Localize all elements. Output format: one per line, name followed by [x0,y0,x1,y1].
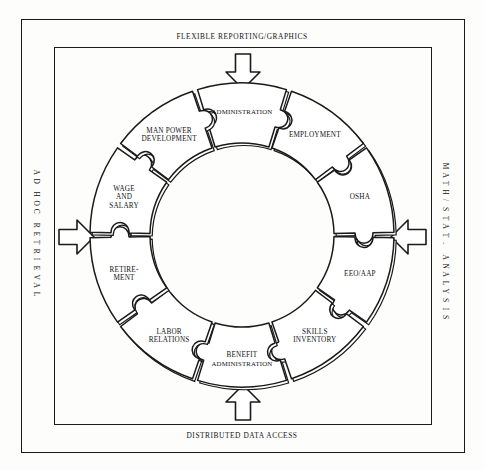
segment-label-wage-and-salary: AND [116,193,132,201]
edge-label-left: AD HOC RETRIEVAL [31,168,40,298]
segment-label-osha: OSHA [350,193,371,201]
segment-label-labor-relations: LABOR [156,328,181,336]
edge-label-right: MATH/STAT. ANALYSIS [440,162,449,322]
segment-label-skills-inventory: INVENTORY [293,336,337,344]
segment-label-eeo-aap: EEO/AAP [344,270,376,278]
segment-label-wage-and-salary: SALARY [109,202,139,210]
segment-label-wage-and-salary: WAGE [113,185,135,193]
edge-label-bottom: DISTRIBUTED DATA ACCESS [0,431,484,440]
segment-label-administration: ADMINISTRATION [212,108,273,115]
puzzle-ring: ADMINISTRATIONEMPLOYMENTOSHAEEO/AAPSKILL… [54,47,430,423]
segment-label-man-power-development: MAN POWER [146,127,192,135]
segment-label-labor-relations: RELATIONS [149,336,190,344]
segment-label-retirement: RETIRE- [110,266,139,274]
segment-label-employment: EMPLOYMENT [289,131,341,139]
segment-label-skills-inventory: SKILLS [302,328,328,336]
segment-label-retirement: MENT [113,274,135,282]
diagram-canvas: FLEXIBLE REPORTING/GRAPHICS DISTRIBUTED … [0,0,484,470]
segment-label-benefit-administration: ADMINISTRATION [212,360,273,367]
segment-label-man-power-development: DEVELOPMENT [141,135,197,143]
edge-label-top: FLEXIBLE REPORTING/GRAPHICS [0,32,484,41]
segment-label-benefit-administration: BENEFIT [227,351,258,359]
